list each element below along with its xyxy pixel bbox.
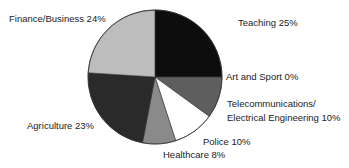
- label-finance-business: Finance/Business 24%: [9, 13, 106, 25]
- label-police: Police 10%: [203, 136, 251, 148]
- pie-slice-teaching: [155, 10, 222, 77]
- label-telecom-line1: Telecommunications/: [227, 98, 316, 110]
- label-healthcare: Healthcare 8%: [163, 149, 225, 161]
- label-telecom-line2: Electrical Engineering 10%: [227, 112, 341, 124]
- label-teaching: Teaching 25%: [238, 17, 298, 29]
- label-art-and-sport: Art and Sport 0%: [226, 71, 298, 83]
- label-agriculture: Agriculture 23%: [27, 120, 94, 132]
